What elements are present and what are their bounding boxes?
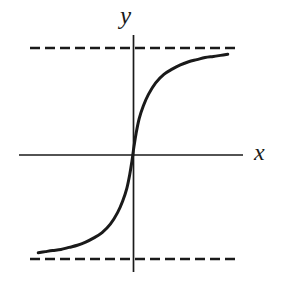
y-axis-label: y (120, 3, 131, 28)
x-axis-label: x (254, 140, 265, 164)
plot-area (0, 0, 281, 282)
figure-canvas: y x (0, 0, 281, 282)
